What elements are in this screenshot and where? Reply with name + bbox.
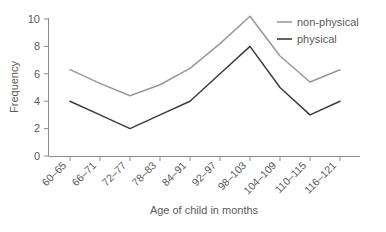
line-chart: 0246810 60–6566–7172–7778–8384–9192–9798…	[0, 0, 386, 232]
y-tick-label: 2	[34, 122, 40, 134]
x-tick-label: 104–109	[241, 159, 279, 197]
y-axis-tick-labels: 0246810	[28, 13, 40, 162]
x-tick-label: 84–91	[159, 159, 188, 188]
x-tick-label: 72–77	[99, 159, 128, 188]
y-tick-label: 4	[34, 95, 40, 107]
y-tick-label: 8	[34, 40, 40, 52]
x-tick-label: 78–83	[129, 159, 158, 188]
series-line-non-physical	[70, 16, 340, 95]
y-tick-label: 6	[34, 68, 40, 80]
x-tick-label: 116–121	[302, 159, 339, 196]
y-axis-title: Frequency	[8, 61, 20, 113]
legend-label: physical	[297, 33, 337, 45]
chart-canvas: 0246810 60–6566–7172–7778–8384–9192–9798…	[0, 0, 386, 232]
legend: non-physicalphysical	[277, 16, 359, 45]
y-tick-label: 0	[34, 150, 40, 162]
x-tick-label: 66–71	[69, 159, 98, 188]
x-tick-label: 60–65	[39, 159, 68, 188]
x-axis-tick-labels: 60–6566–7172–7778–8384–9192–9798–103104–…	[39, 159, 338, 197]
x-axis-title: Age of child in months	[150, 204, 259, 216]
y-axis-ticks	[44, 19, 49, 156]
legend-label: non-physical	[297, 16, 359, 28]
y-tick-label: 10	[28, 13, 40, 25]
